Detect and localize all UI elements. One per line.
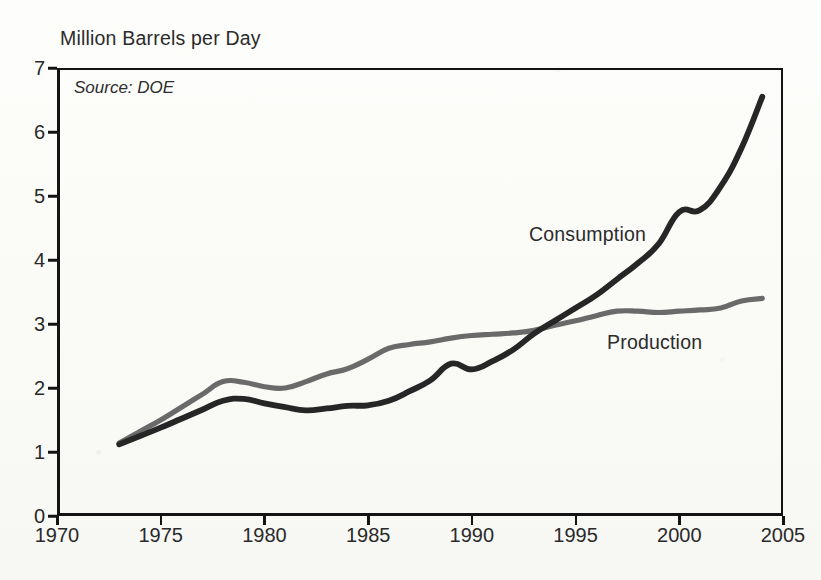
x-tick-mark xyxy=(56,516,59,525)
page-title: Million Barrels per Day xyxy=(60,27,261,50)
x-tick-label: 2005 xyxy=(761,524,806,547)
y-tick-label: 7 xyxy=(34,57,45,80)
plot-area xyxy=(57,68,783,516)
x-tick-mark xyxy=(263,516,266,525)
x-tick-label: 1975 xyxy=(138,524,183,547)
plot-frame xyxy=(57,68,783,516)
x-tick-label: 1980 xyxy=(242,524,287,547)
series-label-consumption: Consumption xyxy=(529,223,646,246)
y-tick-mark xyxy=(48,259,57,262)
y-tick-label: 6 xyxy=(34,121,45,144)
y-tick-label: 3 xyxy=(34,313,45,336)
y-tick-label: 4 xyxy=(34,249,45,272)
y-tick-mark xyxy=(48,131,57,134)
y-tick-label: 5 xyxy=(34,185,45,208)
y-tick-mark xyxy=(48,323,57,326)
x-tick-mark xyxy=(575,516,578,525)
y-tick-mark xyxy=(48,451,57,454)
x-tick-mark xyxy=(678,516,681,525)
y-tick-mark xyxy=(48,67,57,70)
x-tick-mark xyxy=(782,516,785,525)
series-label-production: Production xyxy=(607,331,702,354)
x-tick-label: 1990 xyxy=(450,524,495,547)
y-tick-mark xyxy=(48,387,57,390)
x-tick-mark xyxy=(471,516,474,525)
x-tick-label: 1970 xyxy=(35,524,80,547)
y-tick-mark xyxy=(48,195,57,198)
y-tick-label: 2 xyxy=(34,377,45,400)
chart-page: Million Barrels per Day Source: DOE 7654… xyxy=(0,0,821,580)
x-tick-label: 1985 xyxy=(346,524,391,547)
x-tick-mark xyxy=(367,516,370,525)
x-tick-mark xyxy=(160,516,163,525)
source-note: Source: DOE xyxy=(74,78,174,98)
y-tick-label: 1 xyxy=(34,441,45,464)
x-tick-label: 2000 xyxy=(657,524,702,547)
y-axis: 76543210 xyxy=(0,0,45,580)
x-tick-label: 1995 xyxy=(553,524,598,547)
